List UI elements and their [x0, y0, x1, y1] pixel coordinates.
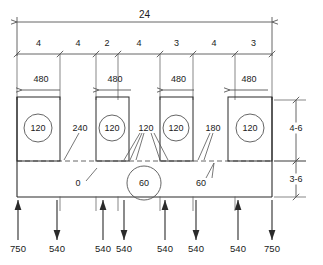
load-arrow-up — [162, 200, 169, 240]
column-dimension-label: 480 — [33, 74, 48, 84]
engineering-drawing: 2444243434804804804801201201201206024012… — [0, 0, 323, 265]
load-arrow-down — [121, 200, 128, 240]
dimension-segment-label: 3 — [174, 38, 179, 48]
load-arrow-up — [100, 200, 107, 240]
callout-leader-line — [151, 133, 160, 160]
side-dimension-label: 4-6 — [289, 123, 302, 133]
column-label: 120 — [104, 123, 119, 133]
callout-60-right-label: 60 — [196, 178, 206, 188]
callout-240-label: 240 — [72, 123, 87, 133]
column-dimension-label: 480 — [171, 74, 186, 84]
load-label: 540 — [95, 243, 111, 254]
load-arrow-up — [235, 200, 242, 240]
load-arrow-down — [193, 200, 200, 240]
load-label: 540 — [188, 243, 204, 254]
load-arrow-head — [54, 230, 61, 240]
dimension-segment-label: 4 — [211, 38, 216, 48]
column-dimension-label: 480 — [107, 74, 122, 84]
load-label: 750 — [264, 243, 280, 254]
callout-120-mid-label: 120 — [138, 123, 153, 133]
load-arrow-head — [269, 230, 276, 240]
load-label: 540 — [49, 243, 65, 254]
load-arrow-head — [235, 200, 242, 210]
dimension-segment-label: 2 — [104, 38, 109, 48]
load-arrow-head — [121, 230, 128, 240]
overall-dim-arrow-right — [272, 20, 278, 24]
load-arrow-head — [193, 230, 200, 240]
overall-dimension-label: 24 — [139, 9, 151, 20]
dimension-segment-label: 4 — [136, 38, 141, 48]
load-label: 750 — [10, 243, 26, 254]
load-arrow-down — [269, 200, 276, 240]
load-arrow-down — [54, 200, 61, 240]
slab-center-label: 60 — [139, 178, 149, 188]
side-dimension-label: 3-6 — [289, 174, 302, 184]
load-label: 540 — [116, 243, 132, 254]
callout-0-label: 0 — [75, 178, 80, 188]
callout-180-label: 180 — [205, 123, 220, 133]
drawing-canvas: 2444243434804804804801201201201206024012… — [0, 0, 323, 265]
load-arrow-up — [15, 200, 22, 240]
dimension-segment-label: 3 — [251, 38, 256, 48]
load-label: 540 — [230, 243, 246, 254]
overall-dim-arrow-left — [11, 20, 17, 24]
load-arrow-head — [15, 200, 22, 210]
callout-leader-line — [154, 133, 168, 160]
column-dimension-label: 480 — [241, 74, 256, 84]
dimension-segment-label: 4 — [75, 38, 80, 48]
load-arrow-head — [162, 200, 169, 210]
column-label: 120 — [168, 123, 183, 133]
dimension-segment-label: 4 — [36, 38, 41, 48]
column-label: 120 — [30, 123, 45, 133]
callout-leader-line — [64, 133, 79, 160]
load-arrow-head — [100, 200, 107, 210]
load-label: 540 — [157, 243, 173, 254]
column-label: 120 — [242, 123, 257, 133]
callout-leader-line — [86, 168, 97, 181]
column-dim-arrow — [224, 88, 230, 92]
